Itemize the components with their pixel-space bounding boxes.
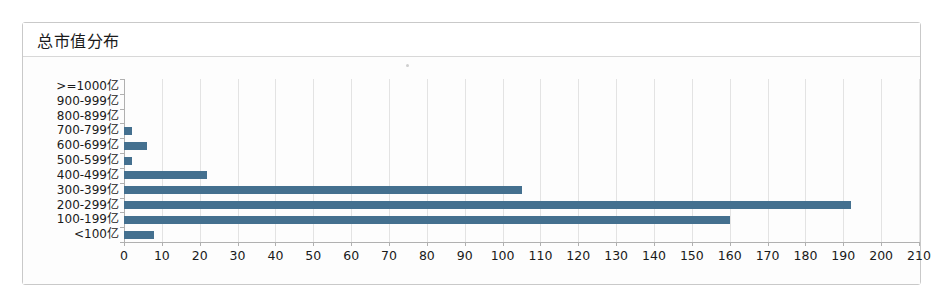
x-axis-tick	[578, 242, 579, 246]
x-axis-tick	[881, 242, 882, 246]
x-axis-tick	[692, 242, 693, 246]
y-axis-tick	[120, 242, 124, 243]
x-axis-tick-label: 60	[343, 248, 359, 263]
x-axis-tick-label: 160	[718, 248, 742, 263]
y-axis-tick-label: 300-399亿	[57, 183, 119, 198]
x-axis-tick	[503, 242, 504, 246]
y-axis-tick	[120, 212, 124, 213]
panel-header: 总市值分布	[23, 23, 920, 57]
x-axis-tick-label: 40	[267, 248, 283, 263]
x-axis-tick	[200, 242, 201, 246]
y-axis-tick-label: 500-599亿	[57, 153, 119, 168]
x-axis-tick-label: 30	[230, 248, 246, 263]
y-axis-tick	[120, 138, 124, 139]
bar[interactable]	[124, 231, 154, 239]
x-axis-tick-label: 110	[528, 248, 552, 263]
bar[interactable]	[124, 157, 132, 165]
x-axis-tick-label: 90	[457, 248, 473, 263]
x-axis-tick-label: 140	[642, 248, 666, 263]
page-title: 总市值分布	[37, 28, 120, 52]
panel-body: >=1000亿900-999亿800-899亿700-799亿600-699亿5…	[23, 57, 920, 284]
x-axis-tick	[805, 242, 806, 246]
x-axis-tick-label: 70	[381, 248, 397, 263]
x-axis-tick	[275, 242, 276, 246]
y-axis-tick-label: 600-699亿	[57, 138, 119, 153]
y-axis-tick	[120, 109, 124, 110]
bar-chart: >=1000亿900-999亿800-899亿700-799亿600-699亿5…	[23, 57, 920, 284]
y-axis-labels: >=1000亿900-999亿800-899亿700-799亿600-699亿5…	[23, 79, 119, 242]
x-axis-tick	[919, 242, 920, 246]
y-axis-tick-label: 900-999亿	[57, 94, 119, 109]
x-axis-tick	[730, 242, 731, 246]
bar[interactable]	[124, 142, 147, 150]
bar[interactable]	[124, 216, 730, 224]
y-axis-tick-label: 700-799亿	[57, 123, 119, 138]
chart-panel: 总市值分布 >=1000亿900-999亿800-899亿700-799亿600…	[22, 22, 921, 285]
y-axis-tick-label: 800-899亿	[57, 109, 119, 124]
x-axis-tick-label: 200	[869, 248, 893, 263]
x-axis-tick-label: 0	[120, 248, 128, 263]
x-axis-tick	[389, 242, 390, 246]
bar[interactable]	[124, 171, 207, 179]
x-axis-tick-label: 20	[192, 248, 208, 263]
x-axis-tick-label: 10	[154, 248, 170, 263]
x-axis-tick	[465, 242, 466, 246]
x-axis-tick	[616, 242, 617, 246]
x-axis-tick-label: 170	[756, 248, 780, 263]
y-axis-tick	[120, 94, 124, 95]
x-axis-tick	[654, 242, 655, 246]
y-axis-tick	[120, 79, 124, 80]
x-axis-tick-label: 150	[680, 248, 704, 263]
x-axis-tick	[162, 242, 163, 246]
y-axis-tick	[120, 227, 124, 228]
y-axis-tick	[120, 168, 124, 169]
x-axis-tick	[843, 242, 844, 246]
bar-series	[124, 79, 919, 242]
x-axis-tick-label: 50	[305, 248, 321, 263]
gridline	[919, 79, 920, 242]
y-axis-tick	[120, 123, 124, 124]
x-axis-tick	[540, 242, 541, 246]
y-axis-tick-label: <100亿	[74, 227, 119, 242]
y-axis-tick	[120, 153, 124, 154]
x-axis-tick-label: 210	[907, 248, 931, 263]
x-axis-tick-label: 80	[419, 248, 435, 263]
y-axis-tick-label: 400-499亿	[57, 168, 119, 183]
y-axis-tick-label: >=1000亿	[56, 79, 119, 94]
bar[interactable]	[124, 127, 132, 135]
bar[interactable]	[124, 201, 851, 209]
x-axis-tick	[313, 242, 314, 246]
x-axis-tick	[351, 242, 352, 246]
y-axis-tick-label: 100-199亿	[57, 212, 119, 227]
x-axis-tick-label: 120	[566, 248, 590, 263]
bar[interactable]	[124, 186, 522, 194]
x-axis-tick	[124, 242, 125, 246]
y-axis-tick-label: 200-299亿	[57, 198, 119, 213]
x-axis-tick-label: 100	[491, 248, 515, 263]
x-axis-tick	[768, 242, 769, 246]
x-axis-tick-label: 130	[604, 248, 628, 263]
x-axis-line	[124, 242, 920, 243]
x-axis-tick	[238, 242, 239, 246]
y-axis-tick	[120, 198, 124, 199]
x-axis-tick	[427, 242, 428, 246]
y-axis-tick	[120, 183, 124, 184]
x-axis-tick-label: 190	[831, 248, 855, 263]
x-axis-tick-label: 180	[793, 248, 817, 263]
